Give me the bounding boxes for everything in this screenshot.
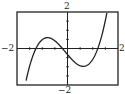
y-min-label: −2 bbox=[58, 86, 71, 94]
y-max-label: 2 bbox=[64, 2, 70, 11]
x-min-label: −2 bbox=[1, 44, 14, 53]
plot-area bbox=[0, 0, 125, 94]
cubic-curve bbox=[26, 13, 107, 81]
x-max-label: 2 bbox=[119, 44, 125, 53]
